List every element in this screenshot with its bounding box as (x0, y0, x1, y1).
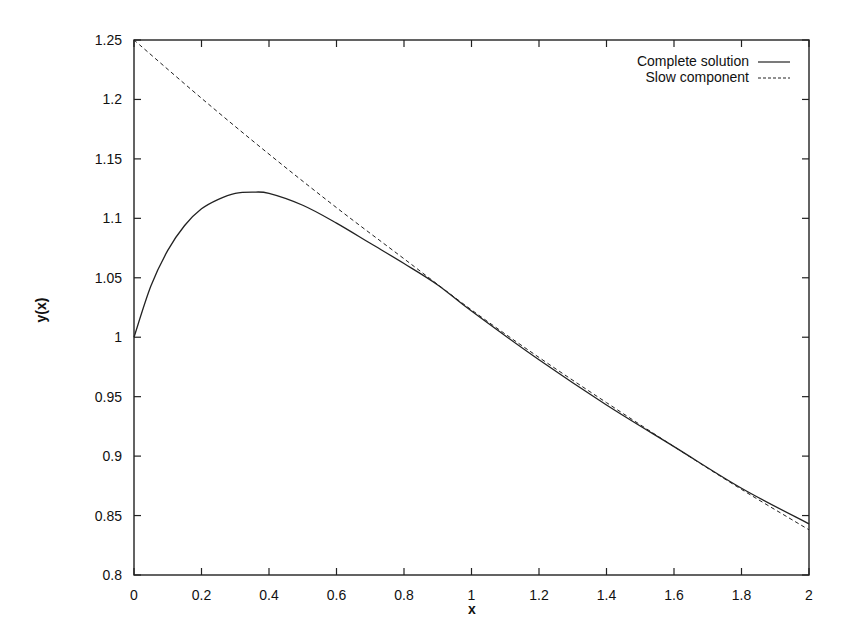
y-tick-label: 1.05 (95, 270, 122, 286)
legend: Complete solution Slow component (637, 53, 790, 85)
legend-label-complete: Complete solution (637, 53, 749, 69)
x-tick-label: 1.6 (664, 587, 684, 603)
x-tick-label: 0.8 (394, 587, 414, 603)
y-tick-label: 1 (114, 329, 122, 345)
x-tick-label: 0.6 (327, 587, 347, 603)
y-tick-label: 0.85 (95, 508, 122, 524)
y-axis-label: y(x) (33, 298, 49, 323)
legend-label-slow: Slow component (645, 69, 749, 85)
y-tick-label: 0.9 (103, 448, 123, 464)
x-tick-label: 0 (130, 587, 138, 603)
x-tick-label: 0.2 (192, 587, 212, 603)
x-tick-label: 2 (805, 587, 813, 603)
y-tick-label: 1.2 (103, 91, 123, 107)
plot-border (134, 40, 809, 575)
x-tick-label: 1.8 (732, 587, 752, 603)
y-axis: 0.80.850.90.9511.051.11.151.21.25 (95, 32, 809, 583)
y-tick-label: 1.1 (103, 210, 123, 226)
x-axis-label: x (468, 601, 476, 617)
series-slow-component (134, 40, 809, 530)
y-tick-label: 1.15 (95, 151, 122, 167)
y-tick-label: 0.8 (103, 567, 123, 583)
y-tick-label: 0.95 (95, 389, 122, 405)
x-tick-label: 1.4 (597, 587, 617, 603)
x-tick-label: 1.2 (529, 587, 549, 603)
x-tick-label: 0.4 (259, 587, 279, 603)
series-lines (134, 40, 809, 530)
plot-frame (134, 40, 809, 575)
series-complete-solution (134, 192, 809, 524)
line-chart: 00.20.40.60.811.21.41.61.82 0.80.850.90.… (0, 0, 850, 644)
y-tick-label: 1.25 (95, 32, 122, 48)
